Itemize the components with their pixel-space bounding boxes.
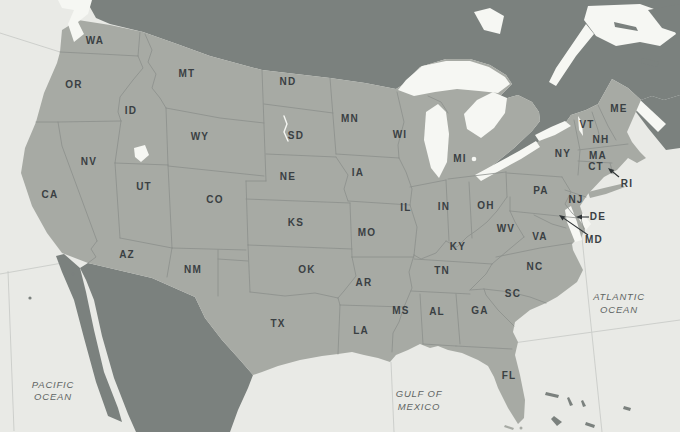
state-label-nc: NC	[527, 261, 544, 272]
state-label-ny: NY	[555, 148, 571, 159]
state-label-ms: MS	[392, 305, 409, 316]
state-label-nv: NV	[81, 156, 97, 167]
state-label-wv: WV	[497, 223, 516, 234]
state-label-nj: NJ	[568, 194, 583, 205]
florida-keys	[520, 427, 523, 430]
state-label-ks: KS	[288, 217, 304, 228]
state-label-mn: MN	[341, 113, 359, 124]
state-label-il: IL	[400, 202, 411, 213]
state-label-ut: UT	[136, 181, 152, 192]
state-label-id: ID	[125, 105, 137, 116]
state-label-pa: PA	[533, 185, 549, 196]
state-label-ok: OK	[298, 264, 315, 275]
state-label-sd: SD	[288, 130, 304, 141]
state-label-ia: IA	[352, 167, 364, 178]
state-label-ar: AR	[356, 277, 373, 288]
state-label-ga: GA	[471, 305, 488, 316]
state-label-sc: SC	[505, 288, 521, 299]
state-label-oh: OH	[477, 200, 494, 211]
state-label-wi: WI	[393, 129, 408, 140]
state-label-wy: WY	[191, 131, 210, 142]
state-label-nh: NH	[593, 134, 610, 145]
state-label-az: AZ	[119, 249, 135, 260]
state-label-in: IN	[438, 201, 450, 212]
state-label-mi: MI	[453, 153, 467, 164]
pacific-ocean-label: PACIFICOCEAN	[32, 379, 74, 402]
lake-st-clair	[472, 157, 477, 162]
state-label-al: AL	[429, 306, 445, 317]
state-label-ct: CT	[588, 161, 604, 172]
island-speck	[28, 296, 31, 299]
state-label-ma: MA	[589, 150, 607, 161]
state-label-ne: NE	[280, 171, 296, 182]
state-label-vt: VT	[579, 119, 594, 130]
state-label-mo: MO	[358, 227, 377, 238]
us-states-map: WAORIDMTWYNVUTCAAZNMCONDSDNEKSOKTXMNIAMO…	[0, 0, 680, 432]
state-label-la: LA	[353, 325, 369, 336]
state-label-tx: TX	[270, 318, 285, 329]
state-label-fl: FL	[502, 370, 517, 381]
state-label-mt: MT	[179, 68, 196, 79]
state-label-va: VA	[532, 231, 548, 242]
state-label-wa: WA	[86, 35, 105, 46]
state-label-ca: CA	[42, 189, 59, 200]
state-label-de: DE	[590, 211, 606, 222]
state-label-nm: NM	[184, 264, 202, 275]
island-speck	[72, 273, 74, 275]
state-label-or: OR	[65, 79, 82, 90]
state-label-tn: TN	[434, 265, 450, 276]
state-label-nd: ND	[280, 76, 297, 87]
state-label-ri: RI	[621, 178, 633, 189]
state-label-ky: KY	[450, 241, 466, 252]
state-label-co: CO	[206, 194, 223, 205]
map-canvas: WAORIDMTWYNVUTCAAZNMCONDSDNEKSOKTXMNIAMO…	[0, 0, 680, 432]
state-label-me: ME	[610, 103, 627, 114]
